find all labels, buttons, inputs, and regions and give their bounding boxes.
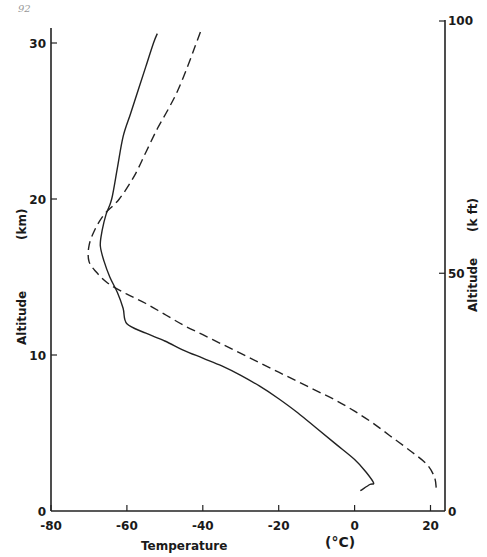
dashed-temperature-line — [88, 31, 436, 488]
x-tick-label: -60 — [116, 519, 138, 533]
y-tick-label: 10 — [29, 349, 46, 363]
solid-temperature-line — [100, 34, 373, 491]
temperature-altitude-chart: 92 -80-60-40-20020 0102030 050100 Temper… — [0, 0, 487, 557]
y2-tick-label: 100 — [448, 14, 473, 28]
y2-tick-label: 0 — [448, 505, 456, 519]
y2-tick-label: 50 — [448, 267, 465, 281]
plot-frame — [51, 20, 445, 511]
y-axis-ticks: 0102030 — [29, 37, 57, 519]
y-axis-title: Altitude — [15, 291, 29, 345]
x-tick-label: -80 — [40, 519, 62, 533]
x-tick-label: -40 — [192, 519, 214, 533]
x-axis-ticks: -80-60-40-20020 — [40, 505, 439, 533]
y-tick-label: 0 — [38, 505, 46, 519]
y2-axis-title: Altitude — [466, 258, 480, 312]
y-axis-unit: (km) — [15, 209, 29, 240]
x-tick-label: 0 — [350, 519, 358, 533]
series-lines — [88, 31, 436, 491]
x-axis-title: Temperature — [141, 539, 227, 553]
page-number: 92 — [18, 3, 31, 14]
x-tick-label: 20 — [422, 519, 439, 533]
x-axis-unit: (°C) — [325, 534, 355, 550]
y-tick-label: 20 — [29, 193, 46, 207]
x-tick-label: -20 — [268, 519, 290, 533]
y-tick-label: 30 — [29, 37, 46, 51]
y2-axis-unit: (k ft) — [466, 198, 480, 232]
